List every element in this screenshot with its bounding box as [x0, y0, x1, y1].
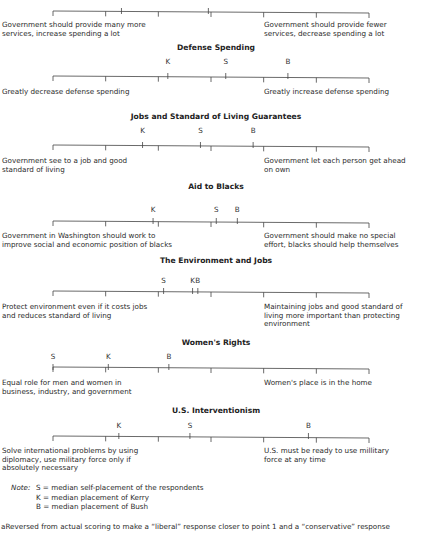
- right-anchor-label: Government should provide fewerservices,…: [264, 21, 387, 38]
- note-line-s: S = median self-placement of the respond…: [36, 483, 204, 492]
- marker-s: S: [223, 57, 228, 66]
- left-anchor-label: Government in Washington should work toi…: [2, 232, 172, 249]
- right-anchor-label: Maintaining jobs and good standard ofliv…: [264, 303, 402, 329]
- note-line-b: B = median placement of Bush: [36, 502, 148, 511]
- left-anchor-label: Protect environment even if it costs job…: [2, 303, 147, 320]
- marker-s: S: [51, 352, 56, 361]
- section-title: U.S. Interventionism: [0, 406, 432, 415]
- marker-k: K: [116, 421, 121, 430]
- marker-k: K: [190, 276, 195, 285]
- left-anchor-label: Government should provide many moreservi…: [2, 21, 146, 38]
- note-block: Note:: [11, 483, 30, 492]
- marker-s: S: [161, 276, 166, 285]
- marker-k: K: [106, 352, 111, 361]
- right-anchor-label: Women's place is in the home: [264, 379, 372, 388]
- section-title: The Environment and Jobs: [0, 256, 432, 265]
- right-anchor-label: Government should make no specialeffort,…: [264, 232, 399, 249]
- section-title: Aid to Blacks: [0, 182, 432, 191]
- section-title: Jobs and Standard of Living Guarantees: [0, 112, 432, 121]
- footnote: aReversed from actual scoring to make a …: [1, 522, 390, 531]
- left-anchor-label: Equal role for men and women inbusiness,…: [2, 379, 132, 396]
- left-anchor-label: Solve international problems by usingdip…: [2, 447, 138, 473]
- marker-b: B: [195, 276, 200, 285]
- left-anchor-label: Greatly decrease defense spending: [2, 88, 129, 97]
- marker-b: B: [285, 57, 290, 66]
- note-prefix: Note:: [11, 483, 30, 492]
- right-anchor-label: Greatly increase defense spending: [264, 88, 389, 97]
- marker-s: S: [198, 126, 203, 135]
- left-anchor-label: Government see to a job and goodstandard…: [2, 157, 127, 174]
- marker-k: K: [140, 126, 145, 135]
- marker-s: S: [188, 421, 193, 430]
- right-anchor-label: Government let each person get aheadon o…: [264, 157, 406, 174]
- marker-b: B: [306, 421, 311, 430]
- marker-k: K: [165, 57, 170, 66]
- marker-b: B: [166, 352, 171, 361]
- note-line-k: K = median placement of Kerry: [36, 493, 149, 502]
- right-anchor-label: U.S. must be ready to use millitaryforce…: [264, 447, 389, 464]
- marker-s: S: [214, 205, 219, 214]
- section-title: Women's Rights: [0, 338, 432, 347]
- marker-b: B: [251, 126, 256, 135]
- marker-k: K: [151, 205, 156, 214]
- section-title: Defense Spending: [0, 43, 432, 52]
- marker-b: B: [235, 205, 240, 214]
